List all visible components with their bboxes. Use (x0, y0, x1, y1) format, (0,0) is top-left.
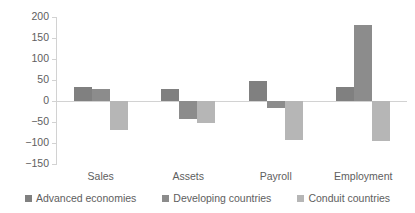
y-tick-label: 200 (31, 10, 49, 22)
plot-area (57, 17, 407, 164)
bar (110, 101, 128, 130)
y-tick-label: −50 (31, 115, 49, 127)
y-tick-label: −150 (25, 157, 49, 169)
bar (372, 101, 390, 141)
legend-label: Advanced economies (36, 192, 136, 205)
chart-legend: Advanced economiesDeveloping countriesCo… (0, 192, 415, 205)
y-tick-mark (52, 17, 56, 18)
legend-label: Conduit countries (308, 192, 390, 205)
y-tick-label: 0 (43, 94, 49, 106)
legend-swatch-icon (297, 195, 304, 202)
legend-item[interactable]: Advanced economies (25, 192, 136, 205)
y-tick-mark (52, 143, 56, 144)
legend-item[interactable]: Developing countries (162, 192, 271, 205)
y-tick-mark (52, 164, 56, 165)
bar-chart: 200150100500−50−100−150 SalesAssetsPayro… (0, 0, 415, 213)
y-tick-mark (52, 122, 56, 123)
y-tick-label: 50 (37, 73, 49, 85)
y-tick-label: 100 (31, 52, 49, 64)
bar-group (249, 17, 303, 164)
bar (92, 89, 110, 101)
legend-item[interactable]: Conduit countries (297, 192, 390, 205)
bar-group (74, 17, 128, 164)
category-label: Assets (145, 170, 233, 183)
bar (249, 81, 267, 101)
bar (179, 101, 197, 119)
bar (267, 101, 285, 108)
category-label: Sales (57, 170, 145, 183)
bar (354, 25, 372, 101)
category-label: Payroll (232, 170, 320, 183)
legend-swatch-icon (162, 195, 169, 202)
legend-swatch-icon (25, 195, 32, 202)
bar (336, 87, 354, 101)
category-label: Employment (320, 170, 408, 183)
bar-group (161, 17, 215, 164)
y-tick-mark (52, 38, 56, 39)
y-tick-mark (52, 59, 56, 60)
bar (197, 101, 215, 123)
bar (161, 89, 179, 101)
legend-label: Developing countries (173, 192, 271, 205)
y-tick-mark (52, 80, 56, 81)
y-tick-label: −100 (25, 136, 49, 148)
bar-group (336, 17, 390, 164)
bar (74, 87, 92, 101)
bar (285, 101, 303, 140)
y-tick-label: 150 (31, 31, 49, 43)
